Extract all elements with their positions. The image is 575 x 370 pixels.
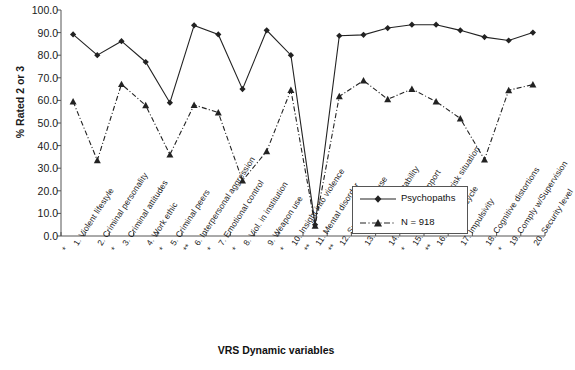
y-tick-label: 90.0 — [16, 27, 58, 39]
data-point-marker — [263, 148, 270, 154]
x-axis-title: VRS Dynamic variables — [0, 344, 552, 356]
data-point-marker — [409, 22, 415, 28]
data-point-marker — [167, 100, 173, 106]
data-point-marker — [433, 98, 440, 104]
legend-label-psychopaths: Psychopaths — [401, 192, 455, 203]
y-tick-label: 100.0 — [16, 4, 58, 16]
data-point-marker — [360, 32, 366, 38]
y-tick-label: 10.0 — [16, 207, 58, 219]
y-tick-label: 70.0 — [16, 72, 58, 84]
data-point-marker — [336, 33, 342, 39]
y-tick-label: 50.0 — [16, 117, 58, 129]
y-tick-label: 0.0 — [16, 230, 58, 242]
data-point-marker — [239, 86, 245, 92]
data-point-marker — [215, 31, 221, 37]
data-point-marker — [360, 77, 367, 83]
y-tick-label: 60.0 — [16, 94, 58, 106]
data-point-marker — [191, 101, 198, 107]
y-tick-label: 30.0 — [16, 162, 58, 174]
data-point-marker — [506, 37, 512, 43]
data-point-marker — [530, 30, 536, 36]
data-point-marker — [166, 151, 173, 157]
y-tick-label: 20.0 — [16, 185, 58, 197]
data-point-marker — [118, 81, 125, 87]
legend-swatch-dashdot-triangle — [358, 211, 398, 235]
data-point-marker — [481, 156, 488, 162]
data-point-marker — [457, 115, 464, 121]
data-point-marker — [94, 157, 101, 163]
data-point-marker — [385, 25, 391, 31]
legend-item-psychopaths: Psychopaths — [353, 187, 469, 211]
data-point-marker — [336, 93, 343, 99]
data-point-marker — [191, 22, 197, 28]
data-point-marker — [287, 87, 294, 93]
data-point-marker — [529, 81, 536, 87]
legend-swatch-solid-diamond — [358, 187, 398, 211]
data-point-marker — [70, 98, 77, 104]
y-axis-tick-labels: 0.010.020.030.040.050.060.070.080.090.01… — [14, 0, 58, 370]
legend: Psychopaths N = 918 — [352, 186, 468, 234]
data-point-marker — [408, 86, 415, 92]
legend-label-n918: N = 918 — [401, 216, 435, 227]
data-point-marker — [481, 34, 487, 40]
data-point-marker — [433, 22, 439, 28]
legend-item-n918: N = 918 — [353, 211, 469, 235]
y-tick-label: 40.0 — [16, 140, 58, 152]
data-point-marker — [457, 27, 463, 33]
y-tick-label: 80.0 — [16, 49, 58, 61]
